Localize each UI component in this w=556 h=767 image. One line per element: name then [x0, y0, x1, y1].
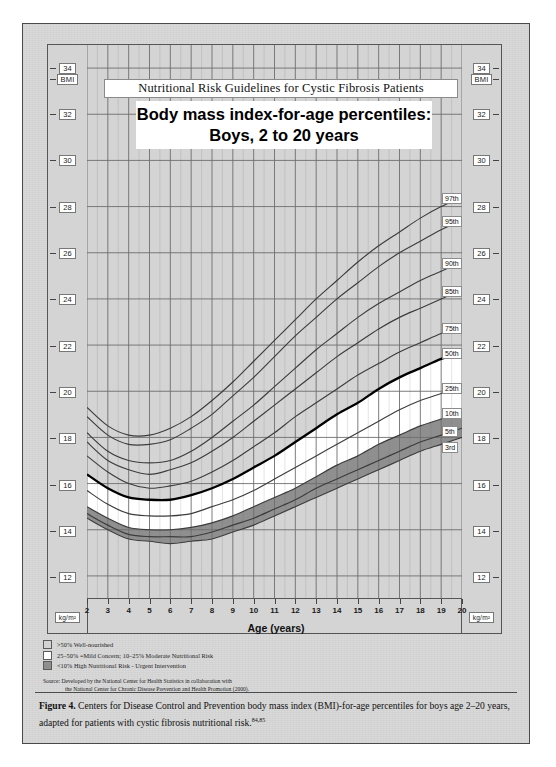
x-axis-tick-label: 8 — [210, 606, 214, 615]
y-axis-tick-26: 26 — [462, 248, 501, 260]
legend-swatch — [43, 661, 52, 670]
x-axis-tick-label: 7 — [189, 606, 193, 615]
y-axis-unit-top: BMI — [462, 73, 501, 85]
x-axis-tick-label: 17 — [395, 606, 404, 615]
figure-caption: Figure 4. Centers for Disease Control an… — [39, 699, 515, 730]
y-axis-right: BMI121416182022242628303234kg/m² — [461, 45, 501, 633]
y-axis-tick-18: 18 — [48, 433, 87, 445]
source-line-2: the National Center for Chronic Disease … — [43, 685, 443, 693]
y-axis-tick-32: 32 — [462, 109, 501, 121]
y-axis-tick-label: 16 — [59, 480, 76, 491]
y-axis-unit-bottom-label: kg/m² — [469, 612, 494, 623]
x-axis-tick-label: 10 — [249, 606, 258, 615]
y-axis-tick-label: 20 — [473, 387, 490, 398]
y-axis-tick-label: 32 — [59, 109, 76, 120]
caption-label: Figure 4. — [39, 700, 76, 711]
chart-title-line1: Body mass index-for-age percentiles: — [137, 104, 431, 125]
x-axis-tick-label: 11 — [270, 606, 278, 615]
legend-item-1: 25–50% =Mild Concern; 10–25% Moderate Nu… — [43, 651, 443, 660]
y-axis-tick-label: 20 — [59, 387, 76, 398]
x-axis-tick-label: 3 — [106, 606, 110, 615]
y-axis-tick-34: 34 — [48, 62, 87, 74]
y-axis-tick-label: 28 — [473, 202, 490, 213]
x-axis-tick-label: 13 — [312, 606, 321, 615]
y-axis-tick-16: 16 — [48, 479, 87, 491]
chart-title-line2: Boys, 2 to 20 years — [209, 125, 359, 146]
legend-swatch — [43, 651, 52, 660]
y-axis-tick-label: 32 — [473, 109, 490, 120]
legend-item-0: >50% Well-nourished — [43, 640, 443, 649]
percentile-label-5th: 5th — [442, 426, 458, 437]
source-note: Source: Developed by the National Center… — [43, 677, 443, 693]
y-axis-tick-label: 14 — [473, 526, 490, 537]
y-axis-left: BMI121416182022242628303234kg/m² — [48, 45, 88, 633]
percentile-label-75th: 75th — [442, 323, 462, 334]
y-axis-tick-32: 32 — [48, 109, 87, 121]
figure-frame: BMI121416182022242628303234kg/m² BMI1214… — [22, 23, 530, 744]
y-axis-tick-22: 22 — [462, 340, 501, 352]
y-axis-tick-label: 14 — [59, 526, 76, 537]
percentile-label-90th: 90th — [442, 258, 462, 269]
chart-subtitle: Nutritional Risk Guidelines for Cystic F… — [138, 81, 423, 96]
x-axis-tick-label: 5 — [147, 606, 151, 615]
percentile-label-3rd: 3rd — [442, 442, 458, 453]
y-axis-tick-label: 30 — [473, 155, 490, 166]
y-axis-tick-label: 34 — [473, 63, 490, 74]
y-axis-tick-label: 24 — [473, 294, 490, 305]
x-axis-tick-label: 18 — [416, 606, 425, 615]
x-axis-tick-label: 20 — [458, 606, 467, 615]
y-axis-tick-20: 20 — [462, 387, 501, 399]
y-axis-tick-28: 28 — [462, 201, 501, 213]
percentile-label-85th: 85th — [442, 286, 462, 297]
source-line-1: Source: Developed by the National Center… — [43, 678, 232, 684]
percentile-label-10th: 10th — [442, 408, 462, 419]
y-axis-tick-label: 12 — [59, 572, 76, 583]
y-axis-tick-14: 14 — [48, 526, 87, 538]
y-axis-tick-24: 24 — [48, 294, 87, 306]
y-axis-tick-label: 34 — [59, 63, 76, 74]
y-axis-tick-30: 30 — [462, 155, 501, 167]
x-axis-tick-label: 12 — [291, 606, 300, 615]
y-axis-tick-label: 12 — [473, 572, 490, 583]
legend-label: >50% Well-nourished — [57, 641, 113, 648]
y-axis-tick-label: 22 — [59, 341, 76, 352]
percentile-label-97th: 97th — [442, 193, 462, 204]
y-axis-tick-12: 12 — [462, 572, 501, 584]
percentile-label-95th: 95th — [442, 216, 462, 227]
legend-swatch — [43, 640, 52, 649]
y-axis-unit-bottom-label: kg/m² — [55, 612, 80, 623]
growth-chart: BMI121416182022242628303234kg/m² BMI1214… — [47, 44, 502, 634]
y-axis-tick-label: 30 — [59, 155, 76, 166]
y-axis-tick-18: 18 — [462, 433, 501, 445]
x-axis-tick-label: 6 — [168, 606, 172, 615]
caption-text: Centers for Disease Control and Preventi… — [39, 700, 510, 728]
y-axis-tick-28: 28 — [48, 201, 87, 213]
percentile-label-25th: 25th — [442, 383, 462, 394]
legend-label: 25–50% =Mild Concern; 10–25% Moderate Nu… — [57, 652, 213, 659]
y-axis-tick-26: 26 — [48, 248, 87, 260]
legend-label: <10% High Nutritional Risk - Urgent Inte… — [57, 662, 186, 669]
y-axis-tick-label: 24 — [59, 294, 76, 305]
chart-subtitle-band: Nutritional Risk Guidelines for Cystic F… — [104, 79, 458, 98]
x-axis-tick-label: 19 — [437, 606, 446, 615]
chart-title-box: Body mass index-for-age percentiles: Boy… — [136, 101, 432, 149]
x-axis-tick-label: 9 — [231, 606, 235, 615]
x-axis-tick-label: 16 — [374, 606, 383, 615]
y-axis-tick-label: 28 — [59, 202, 76, 213]
y-axis-unit-top-label: BMI — [57, 74, 79, 85]
x-axis-tick-label: 15 — [353, 606, 362, 615]
x-axis-tick-label: 14 — [333, 606, 342, 615]
y-axis-unit-top-label: BMI — [471, 74, 493, 85]
caption-references: 84,85 — [252, 717, 266, 723]
y-axis-tick-20: 20 — [48, 387, 87, 399]
x-axis-tick-label: 2 — [85, 606, 89, 615]
y-axis-tick-label: 22 — [473, 341, 490, 352]
y-axis-tick-24: 24 — [462, 294, 501, 306]
x-axis-tick-label: 4 — [126, 606, 130, 615]
y-axis-unit-top: BMI — [48, 73, 87, 85]
percentile-label-50th: 50th — [442, 348, 462, 359]
y-axis-tick-34: 34 — [462, 62, 501, 74]
y-axis-tick-30: 30 — [48, 155, 87, 167]
legend-item-2: <10% High Nutritional Risk - Urgent Inte… — [43, 661, 443, 670]
y-axis-tick-label: 18 — [59, 433, 76, 444]
